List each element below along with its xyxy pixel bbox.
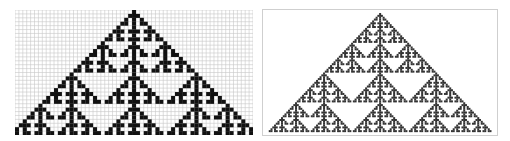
ca-grid-canvas [15,10,253,135]
ca-extended-panel: Cellular automaton evolution (extended) [262,9,498,136]
ca-extended-canvas [263,10,497,135]
ca-grid-panel: Cellular automaton evolution (grid view) [15,10,253,135]
